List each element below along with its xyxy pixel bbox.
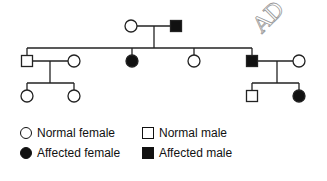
normal-female-symbol <box>188 55 200 67</box>
pedigree-chart: AD <box>0 0 327 120</box>
normal-female-symbol <box>125 20 137 32</box>
legend-affected-female: Affected female <box>20 146 120 160</box>
legend-label: Affected female <box>37 146 120 160</box>
affected-male-symbol <box>171 21 182 32</box>
legend-label: Normal female <box>37 126 115 140</box>
legend-label: Normal male <box>159 126 227 140</box>
affected-female-symbol <box>293 90 305 102</box>
pedigree-lines <box>27 26 299 90</box>
open-circle-icon <box>20 127 32 139</box>
filled-square-icon <box>142 147 154 159</box>
legend-normal-female: Normal female <box>20 126 115 140</box>
legend-normal-male: Normal male <box>142 126 227 140</box>
normal-female-symbol <box>68 55 80 67</box>
normal-male-symbol <box>22 56 33 67</box>
normal-female-symbol <box>293 55 305 67</box>
normal-female-symbol <box>21 90 33 102</box>
affected-female-symbol <box>126 55 138 67</box>
normal-male-symbol <box>247 91 258 102</box>
legend-affected-male: Affected male <box>142 146 232 160</box>
filled-circle-icon <box>20 147 32 159</box>
affected-male-symbol <box>247 56 258 67</box>
normal-female-symbol <box>68 90 80 102</box>
handwritten-annotation: AD <box>247 0 289 38</box>
legend-label: Affected male <box>159 146 232 160</box>
open-square-icon <box>142 127 154 139</box>
